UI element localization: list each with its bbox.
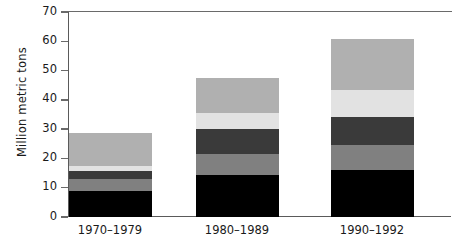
y-tick-label: 40 xyxy=(42,91,57,105)
y-tick-mark xyxy=(61,70,68,71)
bar-segment-segment-1 xyxy=(196,175,279,217)
y-tick-mark xyxy=(61,187,68,188)
bar-1990–1992 xyxy=(331,39,414,217)
bar-segment-segment-1 xyxy=(331,170,414,217)
bar-segment-segment-3 xyxy=(196,129,279,154)
y-tick-label: 20 xyxy=(42,150,57,164)
y-axis-title: Million metric tons xyxy=(15,17,29,187)
bar-segment-segment-4 xyxy=(331,90,414,118)
y-tick-label: 10 xyxy=(42,179,57,193)
bar-segment-segment-3 xyxy=(331,117,414,144)
bar-1980–1989 xyxy=(196,78,279,217)
bar-segment-segment-1 xyxy=(69,191,152,217)
bar-segment-segment-5 xyxy=(331,39,414,89)
stacked-bar-chart: Million metric tons 010203040506070 1970… xyxy=(0,0,467,247)
x-axis-label-3: 1990–1992 xyxy=(312,223,432,237)
bar-segment-segment-2 xyxy=(196,154,279,175)
bar-1970–1979 xyxy=(69,133,152,217)
bar-segment-segment-2 xyxy=(331,145,414,170)
y-tick-label: 70 xyxy=(42,4,57,18)
y-tick-mark xyxy=(61,11,68,12)
y-tick-mark xyxy=(61,41,68,42)
y-tick-label: 30 xyxy=(42,121,57,135)
bar-segment-segment-3 xyxy=(69,171,152,179)
bar-segment-segment-2 xyxy=(69,179,152,191)
y-tick-mark xyxy=(61,128,68,129)
y-tick-mark xyxy=(61,158,68,159)
bar-segment-segment-5 xyxy=(196,78,279,113)
y-tick-mark xyxy=(61,99,68,100)
bar-segment-segment-4 xyxy=(196,113,279,129)
bar-segment-segment-5 xyxy=(69,133,152,166)
y-tick-label: 60 xyxy=(42,33,57,47)
x-axis-label-2: 1980–1989 xyxy=(177,223,297,237)
x-axis-label-1: 1970–1979 xyxy=(50,223,170,237)
y-tick-mark xyxy=(61,216,68,217)
y-tick-label: 50 xyxy=(42,62,57,76)
bar-segment-segment-4 xyxy=(69,166,152,171)
y-tick-label: 0 xyxy=(50,209,57,223)
